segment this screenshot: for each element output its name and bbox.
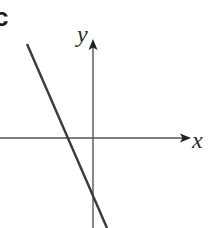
panel-label: c	[0, 4, 8, 30]
graph-figure: c y x	[0, 0, 214, 228]
plotted-line	[27, 44, 107, 228]
y-axis-label: y	[77, 22, 88, 46]
coordinate-plane	[0, 0, 214, 228]
x-axis-label: x	[192, 128, 203, 152]
